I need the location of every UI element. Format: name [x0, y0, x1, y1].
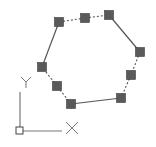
ucs-y-label-icon	[21, 77, 31, 88]
polyline-segment-solid[interactable]	[109, 15, 140, 52]
grip-square-icon[interactable]	[81, 14, 90, 23]
drawing-svg[interactable]: X Y	[0, 0, 156, 147]
polyline-grips[interactable]	[38, 11, 145, 109]
grip-square-icon[interactable]	[55, 18, 64, 27]
ucs-origin-square-icon	[16, 127, 23, 134]
grip-square-icon[interactable]	[117, 94, 126, 103]
grip-square-icon[interactable]	[105, 11, 114, 20]
grip-square-icon[interactable]	[53, 82, 62, 91]
grip-square-icon[interactable]	[127, 71, 136, 80]
polyline-segment-solid[interactable]	[71, 98, 121, 104]
grip-square-icon[interactable]	[136, 48, 145, 57]
ucs-x-label-icon	[66, 122, 78, 134]
grip-square-icon[interactable]	[38, 63, 47, 72]
polyline-segment-solid[interactable]	[42, 22, 59, 67]
grip-square-icon[interactable]	[67, 100, 76, 109]
drawing-canvas[interactable]: X Y	[0, 0, 156, 147]
